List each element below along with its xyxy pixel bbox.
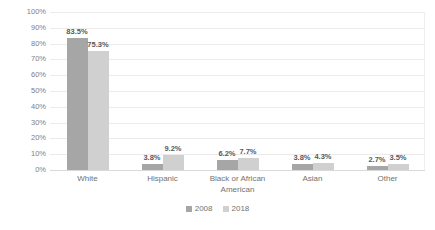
x-axis-line (50, 170, 425, 171)
bar-value-label: 2.7% (368, 155, 385, 164)
bar-column: 3.8% (292, 12, 313, 170)
bar-column: 6.2% (217, 12, 238, 170)
y-axis-tick-label: 80% (6, 40, 46, 48)
bar-column: 3.5% (388, 12, 409, 170)
bar-column: 75.3% (88, 12, 109, 170)
bar-group-bars: 6.2%7.7% (200, 12, 275, 170)
legend-item-2008[interactable]: 2008 (186, 204, 213, 213)
x-axis-category-label: White (50, 174, 125, 185)
bar-column: 7.7% (238, 12, 259, 170)
bar-column: 83.5% (67, 12, 88, 170)
x-axis-category-label: Other (350, 174, 425, 185)
y-axis-tick-label: 60% (6, 71, 46, 79)
bar-column: 4.3% (313, 12, 334, 170)
bar-group-bars: 83.5%75.3% (50, 12, 125, 170)
y-axis-tick-label: 100% (6, 8, 46, 16)
y-axis-tick-label: 0% (6, 166, 46, 174)
bar-2008[interactable] (67, 38, 88, 170)
bar-group-bars: 3.8%4.3% (275, 12, 350, 170)
bar-column: 3.8% (142, 12, 163, 170)
y-axis-tick-label: 50% (6, 87, 46, 95)
bar-value-label: 3.8% (293, 153, 310, 162)
bar-2018[interactable] (88, 51, 109, 170)
bar-2018[interactable] (238, 158, 259, 170)
x-axis-category-label: Asian (275, 174, 350, 185)
bar-value-label: 3.8% (143, 153, 160, 162)
bar-value-label: 75.3% (87, 40, 108, 49)
bar-group-bars: 3.8%9.2% (125, 12, 200, 170)
plot-area: 83.5%75.3%White3.8%9.2%Hispanic6.2%7.7%B… (50, 12, 425, 170)
x-axis-category-label: Hispanic (125, 174, 200, 185)
bar-group: 6.2%7.7%Black or African American (200, 12, 275, 170)
x-axis-category-label: Black or African American (200, 174, 275, 195)
bar-group-bars: 2.7%3.5% (350, 12, 425, 170)
bar-value-label: 4.3% (314, 152, 331, 161)
plot-right-border (424, 12, 425, 170)
bar-value-label: 9.2% (164, 144, 181, 153)
chart-legend: 20082018 (0, 204, 435, 213)
bar-column: 2.7% (367, 12, 388, 170)
y-axis-tick-label: 30% (6, 119, 46, 127)
bar-value-label: 3.5% (389, 153, 406, 162)
legend-label: 2018 (232, 204, 250, 213)
legend-swatch-icon (186, 206, 192, 212)
bar-group: 2.7%3.5%Other (350, 12, 425, 170)
legend-label: 2008 (195, 204, 213, 213)
y-axis-tick-label: 10% (6, 150, 46, 158)
y-axis: 100%90%80%70%60%50%40%30%20%10%0% (4, 0, 46, 230)
bar-group: 83.5%75.3%White (50, 12, 125, 170)
bar-2008[interactable] (217, 160, 238, 170)
grouped-bar-chart: 100%90%80%70%60%50%40%30%20%10%0% 83.5%7… (0, 0, 435, 230)
y-axis-tick-label: 90% (6, 24, 46, 32)
y-axis-tick-label: 70% (6, 55, 46, 63)
bar-group: 3.8%4.3%Asian (275, 12, 350, 170)
bar-2018[interactable] (313, 163, 334, 170)
legend-swatch-icon (223, 206, 229, 212)
bar-value-label: 7.7% (239, 147, 256, 156)
legend-item-2018[interactable]: 2018 (223, 204, 250, 213)
bar-value-label: 83.5% (66, 27, 87, 36)
bar-group: 3.8%9.2%Hispanic (125, 12, 200, 170)
bar-value-label: 6.2% (218, 149, 235, 158)
y-axis-tick-label: 40% (6, 103, 46, 111)
bar-column: 9.2% (163, 12, 184, 170)
bar-2018[interactable] (163, 155, 184, 170)
y-axis-tick-label: 20% (6, 134, 46, 142)
